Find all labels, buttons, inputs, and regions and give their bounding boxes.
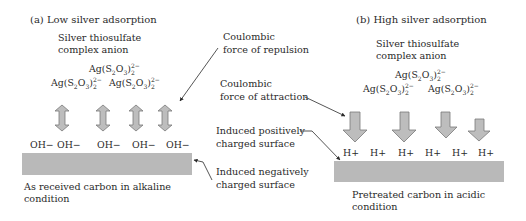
down-arrow-icon bbox=[435, 112, 457, 138]
positive-surface-pointer bbox=[300, 131, 340, 160]
double-arrow-icon bbox=[55, 105, 69, 131]
double-arrow-icon bbox=[129, 105, 143, 131]
attraction-pointer bbox=[305, 97, 345, 116]
repulsion-arrows bbox=[55, 105, 172, 131]
double-arrow-icon bbox=[158, 105, 172, 131]
negative-surface-pointer bbox=[194, 160, 212, 180]
double-arrow-icon bbox=[96, 105, 110, 131]
attraction-arrows bbox=[343, 112, 490, 142]
down-arrow-icon bbox=[468, 119, 490, 141]
down-arrow-icon bbox=[392, 112, 416, 142]
repulsion-pointer bbox=[180, 48, 218, 101]
diagram-arrows bbox=[0, 0, 526, 221]
down-arrow-icon bbox=[343, 112, 367, 142]
